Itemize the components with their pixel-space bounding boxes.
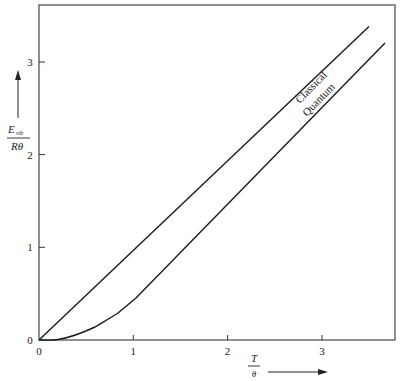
x-axis-ticks: [133, 335, 322, 340]
x-tick-2: 2: [225, 345, 231, 357]
x-tick-1: 1: [131, 345, 137, 357]
x-axis-label: T θ: [248, 352, 328, 379]
y-label-numerator: E: [7, 123, 15, 135]
y-tick-0: 0: [27, 334, 33, 346]
x-axis-arrow-icon: [318, 369, 328, 375]
y-label-denominator: Rθ: [10, 140, 24, 152]
x-label-denominator: θ: [252, 369, 257, 379]
x-label-numerator: T: [251, 352, 258, 364]
y-tick-2: 2: [27, 149, 33, 161]
y-label-subscript: vib: [16, 130, 23, 136]
y-tick-3: 3: [27, 56, 33, 68]
y-axis-ticks: [39, 62, 45, 247]
chart-canvas: 0 1 2 3 0 1 2 3 Classical Quantum E vib …: [0, 0, 402, 381]
y-axis-label: E vib Rθ: [7, 70, 30, 152]
x-tick-3: 3: [319, 345, 325, 357]
y-axis-arrow-icon: [15, 70, 21, 80]
x-tick-0: 0: [36, 345, 42, 357]
y-tick-1: 1: [27, 241, 33, 253]
